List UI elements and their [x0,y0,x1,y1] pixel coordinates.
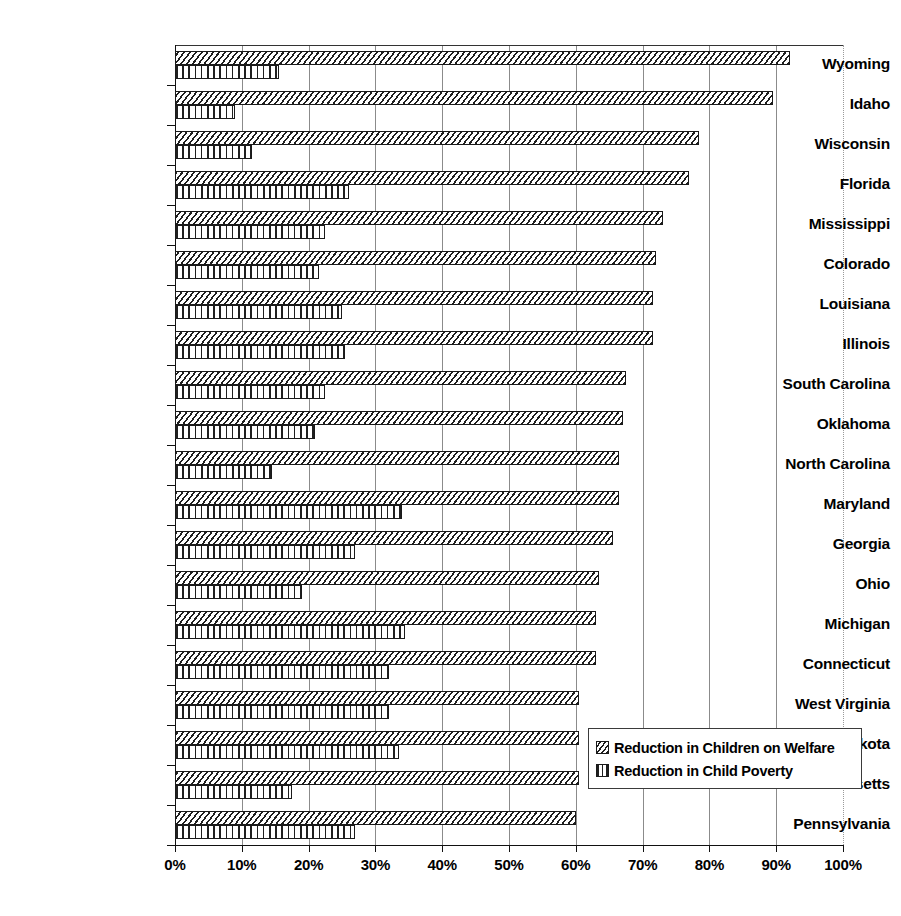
y-axis-tick [167,445,175,446]
bar-poverty [175,785,292,799]
bar-welfare [175,531,613,545]
y-axis-tick [167,845,175,846]
x-axis-tick [509,845,510,852]
category-label: North Carolina [736,455,901,473]
y-axis-tick [167,165,175,166]
bar-welfare [175,651,596,665]
y-axis-tick [167,685,175,686]
x-axis-tick-label: 0% [145,856,205,873]
x-axis-tick-label: 70% [613,856,673,873]
category-label: Louisiana [736,295,901,313]
bar-poverty [175,145,252,159]
category-label: Pennsylvania [736,815,901,833]
bar-welfare [175,211,663,225]
category-label: Connecticut [736,655,901,673]
bar-poverty [175,465,272,479]
y-axis-tick [167,85,175,86]
y-axis-tick [167,725,175,726]
x-axis-tick-label: 10% [212,856,272,873]
bar-poverty [175,225,325,239]
x-axis-tick-label: 30% [345,856,405,873]
category-label: Ohio [736,575,901,593]
gridline-100 [843,45,844,845]
category-label: West Virginia [736,695,901,713]
bar-chart: WyomingIdahoWisconsinFloridaMississippiC… [0,0,901,916]
plot-area [175,45,843,845]
bar-poverty [175,505,402,519]
y-axis-tick [167,245,175,246]
x-axis-tick [242,845,243,852]
y-axis-tick [167,285,175,286]
category-label: South Carolina [736,375,901,393]
bar-welfare [175,451,619,465]
x-axis-tick [843,845,844,852]
bar-welfare [175,91,773,105]
bar-poverty [175,825,355,839]
bar-poverty [175,545,355,559]
x-axis-tick-label: 40% [412,856,472,873]
x-axis-tick-label: 100% [813,856,873,873]
category-label: Wisconsin [736,135,901,153]
bar-poverty [175,425,315,439]
x-axis-tick [776,845,777,852]
x-axis-tick-label: 50% [479,856,539,873]
y-axis-tick [167,365,175,366]
bar-poverty [175,185,349,199]
category-label: Georgia [736,535,901,553]
bar-welfare [175,811,576,825]
y-axis-tick [167,325,175,326]
bar-welfare [175,691,579,705]
bar-poverty [175,745,399,759]
x-axis-tick [442,845,443,852]
y-axis-tick [167,125,175,126]
bar-poverty [175,385,325,399]
x-axis-tick [576,845,577,852]
y-axis-tick [167,805,175,806]
y-axis-tick [167,765,175,766]
x-axis-tick [643,845,644,852]
y-axis-tick [167,565,175,566]
bar-welfare [175,731,579,745]
x-axis-tick [309,845,310,852]
bar-welfare [175,491,619,505]
category-label: Illinois [736,335,901,353]
y-axis-tick [167,205,175,206]
x-axis-tick [175,845,176,852]
bar-poverty [175,625,405,639]
bar-welfare [175,371,626,385]
category-label: Oklahoma [736,415,901,433]
category-label: Mississippi [736,215,901,233]
x-axis-tick-label: 60% [546,856,606,873]
chart-legend: Reduction in Children on Welfare Reducti… [588,728,862,789]
bar-welfare [175,571,599,585]
category-label: Colorado [736,255,901,273]
bar-poverty [175,585,302,599]
x-axis-tick [375,845,376,852]
bar-welfare [175,51,790,65]
bar-poverty [175,705,389,719]
category-label: Maryland [736,495,901,513]
y-axis-tick [167,525,175,526]
bar-poverty [175,105,235,119]
legend-label-poverty: Reduction in Child Poverty [614,763,793,779]
bar-poverty [175,65,279,79]
x-axis-tick [709,845,710,852]
bar-welfare [175,771,579,785]
category-label: Florida [736,175,901,193]
bar-poverty [175,665,389,679]
diagonal-hatch-swatch-icon [596,741,609,754]
bar-welfare [175,171,689,185]
x-axis-tick-label: 20% [279,856,339,873]
legend-item-welfare: Reduction in Children on Welfare [596,736,861,759]
category-label: Michigan [736,615,901,633]
bar-welfare [175,611,596,625]
legend-item-poverty: Reduction in Child Poverty [596,759,861,782]
y-axis-tick [167,645,175,646]
bar-poverty [175,345,345,359]
bar-welfare [175,291,653,305]
bar-welfare [175,251,656,265]
legend-label-welfare: Reduction in Children on Welfare [614,740,835,756]
bar-welfare [175,331,653,345]
y-axis-tick [167,605,175,606]
bar-welfare [175,131,699,145]
